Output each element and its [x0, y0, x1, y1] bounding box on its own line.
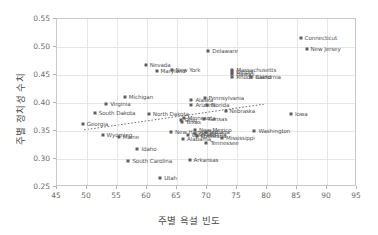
data-point	[221, 137, 224, 140]
data-point-label: Iowa	[295, 111, 308, 117]
data-point-label: Delaware	[212, 48, 238, 54]
data-point	[93, 111, 96, 114]
x-tickmark	[146, 186, 147, 189]
data-point-label: Pennsylvania	[209, 95, 245, 101]
y-tickmark	[53, 46, 56, 47]
data-point-label: Texas	[186, 119, 201, 125]
data-point	[206, 103, 209, 106]
y-tick-label: 0.25	[20, 182, 50, 191]
data-point-label: Utah	[164, 175, 177, 181]
data-point	[250, 75, 253, 78]
x-tickmark	[326, 186, 327, 189]
data-point-label: Virginia	[110, 101, 130, 107]
data-point-label: New Jersey	[311, 46, 341, 52]
data-point	[101, 134, 104, 137]
y-tickmark	[53, 158, 56, 159]
data-point-label: South Carolina	[132, 158, 172, 164]
data-point	[305, 47, 308, 50]
x-tickmark	[116, 186, 117, 189]
data-point	[188, 158, 191, 161]
y-tickmark	[53, 186, 56, 187]
data-point	[290, 112, 293, 115]
data-point	[207, 50, 210, 53]
y-axis-label: 주별 정치성 수치	[13, 49, 27, 169]
data-point	[81, 122, 84, 125]
data-point	[253, 130, 256, 133]
y-tickmark	[53, 74, 56, 75]
x-tick-label: 45	[51, 191, 61, 200]
x-tickmark	[266, 186, 267, 189]
x-tick-label: 55	[111, 191, 121, 200]
y-tick-label: 0.30	[20, 154, 50, 163]
data-point	[136, 147, 139, 150]
x-tick-label: 75	[231, 191, 241, 200]
gridline-vertical	[237, 19, 238, 185]
data-point	[182, 137, 185, 140]
data-point	[190, 104, 193, 107]
data-point-label: Arkansas	[194, 157, 219, 163]
x-tick-label: 60	[141, 191, 151, 200]
x-tick-label: 95	[351, 191, 361, 200]
data-point	[127, 160, 130, 163]
x-tickmark	[296, 186, 297, 189]
data-point-label: Maine	[123, 134, 139, 140]
gridline-vertical	[297, 19, 298, 185]
y-tickmark	[53, 18, 56, 19]
data-point	[117, 136, 120, 139]
data-point	[105, 102, 108, 105]
data-point	[159, 177, 162, 180]
x-tickmark	[206, 186, 207, 189]
data-point	[299, 37, 302, 40]
gridline-vertical	[327, 19, 328, 185]
plot-area: ConnecticutNew JerseyDelawareNevadaMaryl…	[56, 18, 356, 186]
data-point-label: Connecticut	[305, 35, 337, 41]
x-tickmark	[56, 186, 57, 189]
data-point-label: Michigan	[129, 94, 153, 100]
y-tick-label: 0.40	[20, 98, 50, 107]
data-point	[205, 142, 208, 145]
data-point	[203, 96, 206, 99]
y-tick-label: 0.35	[20, 126, 50, 135]
data-point-label: California	[255, 74, 281, 80]
data-point-label: New York	[176, 67, 201, 73]
data-point	[203, 118, 206, 121]
y-tick-label: 0.55	[20, 14, 50, 23]
data-point-label: Idaho	[141, 146, 156, 152]
data-point-label: Nebraska	[230, 108, 256, 114]
data-point	[123, 95, 126, 98]
data-point	[170, 131, 173, 134]
x-tick-label: 70	[201, 191, 211, 200]
x-tick-label: 90	[321, 191, 331, 200]
data-point	[144, 63, 147, 66]
data-point	[170, 68, 173, 71]
x-tick-label: 85	[291, 191, 301, 200]
data-point-label: Nevada	[150, 62, 171, 68]
gridline-vertical	[267, 19, 268, 185]
x-tick-label: 80	[261, 191, 271, 200]
y-tick-label: 0.50	[20, 42, 50, 51]
x-axis-label: 주별 욕설 빈도	[0, 213, 378, 227]
x-tickmark	[356, 186, 357, 189]
data-point-label: Tennessee	[210, 140, 238, 146]
data-point-label: Kansas	[208, 116, 227, 122]
data-point-label: Washington	[258, 128, 290, 134]
data-point	[147, 112, 150, 115]
y-tick-label: 0.45	[20, 70, 50, 79]
data-point	[180, 121, 183, 124]
x-tickmark	[86, 186, 87, 189]
x-tickmark	[176, 186, 177, 189]
x-tick-label: 50	[81, 191, 91, 200]
gridline-vertical	[87, 19, 88, 185]
data-point	[190, 99, 193, 102]
gridline-vertical	[177, 19, 178, 185]
data-point-label: South Dakota	[99, 110, 136, 116]
x-tickmark	[236, 186, 237, 189]
data-point-label: Florida	[211, 102, 229, 108]
data-point	[224, 109, 227, 112]
scatter-chart: ConnecticutNew JerseyDelawareNevadaMaryl…	[0, 0, 378, 235]
data-point-label: Georgia	[87, 121, 108, 127]
data-point	[231, 75, 234, 78]
data-point	[155, 70, 158, 73]
y-tickmark	[53, 102, 56, 103]
y-tickmark	[53, 130, 56, 131]
